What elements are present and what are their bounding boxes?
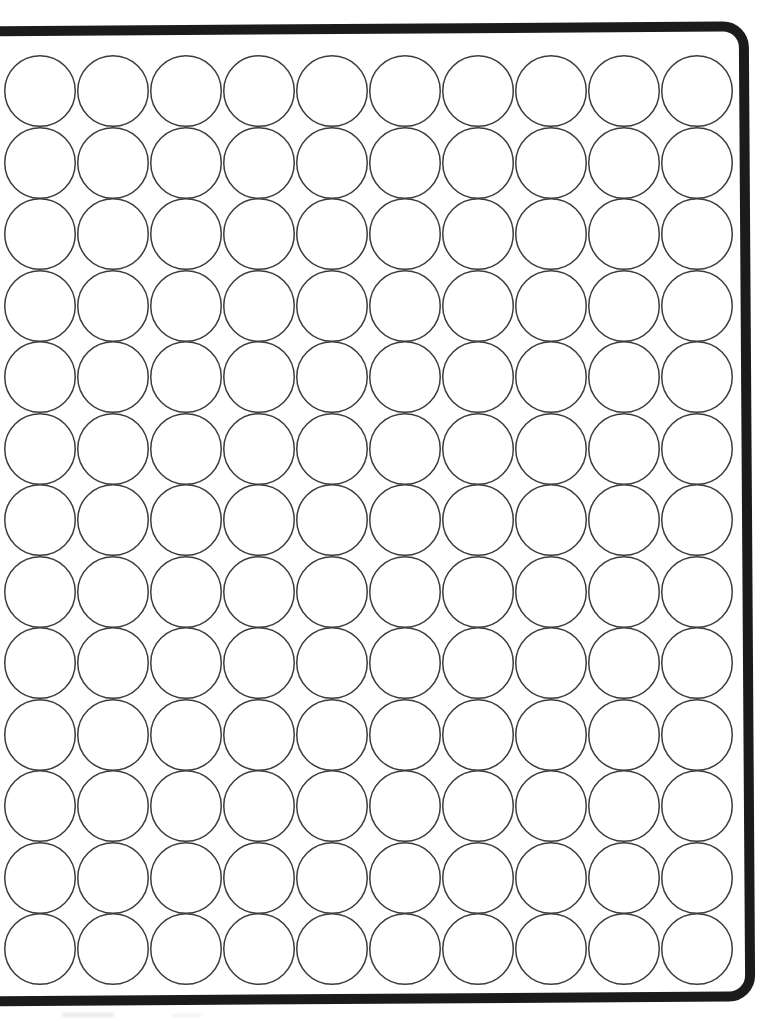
circle-cell[interactable] <box>223 556 296 628</box>
circle-cell[interactable] <box>442 413 515 485</box>
circle-cell[interactable] <box>77 627 150 699</box>
circle-cell[interactable] <box>661 770 734 842</box>
circle-cell[interactable] <box>223 127 296 199</box>
circle-cell[interactable] <box>77 770 150 842</box>
circle-cell[interactable] <box>369 270 442 342</box>
circle-cell[interactable] <box>661 413 734 485</box>
circle-cell[interactable] <box>515 413 588 485</box>
circle-cell[interactable] <box>442 198 515 270</box>
circle-cell[interactable] <box>515 127 588 199</box>
circle-cell[interactable] <box>223 198 296 270</box>
circle-cell[interactable] <box>4 484 77 556</box>
circle-cell[interactable] <box>77 913 150 985</box>
circle-cell[interactable] <box>369 913 442 985</box>
circle-cell[interactable] <box>442 913 515 985</box>
circle-cell[interactable] <box>223 627 296 699</box>
circle-cell[interactable] <box>661 55 734 127</box>
circle-cell[interactable] <box>77 413 150 485</box>
circle-cell[interactable] <box>515 341 588 413</box>
circle-cell[interactable] <box>296 198 369 270</box>
circle-cell[interactable] <box>588 699 661 771</box>
circle-cell[interactable] <box>223 341 296 413</box>
circle-cell[interactable] <box>296 127 369 199</box>
circle-cell[interactable] <box>150 341 223 413</box>
circle-cell[interactable] <box>296 341 369 413</box>
circle-cell[interactable] <box>150 484 223 556</box>
circle-cell[interactable] <box>661 699 734 771</box>
circle-cell[interactable] <box>588 842 661 914</box>
circle-cell[interactable] <box>369 842 442 914</box>
circle-cell[interactable] <box>588 913 661 985</box>
circle-cell[interactable] <box>150 55 223 127</box>
circle-cell[interactable] <box>369 484 442 556</box>
circle-cell[interactable] <box>661 270 734 342</box>
circle-cell[interactable] <box>150 413 223 485</box>
circle-cell[interactable] <box>442 55 515 127</box>
circle-cell[interactable] <box>515 699 588 771</box>
circle-cell[interactable] <box>515 198 588 270</box>
circle-cell[interactable] <box>369 770 442 842</box>
circle-cell[interactable] <box>661 341 734 413</box>
circle-cell[interactable] <box>77 699 150 771</box>
circle-cell[interactable] <box>588 556 661 628</box>
circle-cell[interactable] <box>296 699 369 771</box>
circle-cell[interactable] <box>369 699 442 771</box>
circle-cell[interactable] <box>661 913 734 985</box>
circle-cell[interactable] <box>515 270 588 342</box>
circle-cell[interactable] <box>4 127 77 199</box>
circle-cell[interactable] <box>150 627 223 699</box>
circle-cell[interactable] <box>296 270 369 342</box>
circle-cell[interactable] <box>588 770 661 842</box>
circle-cell[interactable] <box>223 484 296 556</box>
circle-cell[interactable] <box>442 270 515 342</box>
circle-cell[interactable] <box>77 556 150 628</box>
circle-cell[interactable] <box>296 770 369 842</box>
circle-cell[interactable] <box>296 627 369 699</box>
circle-cell[interactable] <box>442 699 515 771</box>
circle-cell[interactable] <box>442 484 515 556</box>
circle-cell[interactable] <box>150 842 223 914</box>
circle-cell[interactable] <box>4 413 77 485</box>
circle-cell[interactable] <box>4 270 77 342</box>
circle-cell[interactable] <box>150 913 223 985</box>
circle-cell[interactable] <box>150 270 223 342</box>
circle-cell[interactable] <box>150 198 223 270</box>
circle-cell[interactable] <box>223 413 296 485</box>
circle-cell[interactable] <box>661 484 734 556</box>
circle-cell[interactable] <box>442 627 515 699</box>
circle-cell[interactable] <box>661 127 734 199</box>
circle-cell[interactable] <box>442 341 515 413</box>
circle-cell[interactable] <box>4 556 77 628</box>
circle-cell[interactable] <box>442 127 515 199</box>
circle-cell[interactable] <box>588 270 661 342</box>
circle-cell[interactable] <box>515 770 588 842</box>
circle-cell[interactable] <box>369 556 442 628</box>
circle-cell[interactable] <box>4 341 77 413</box>
circle-cell[interactable] <box>369 127 442 199</box>
circle-cell[interactable] <box>296 55 369 127</box>
circle-cell[interactable] <box>588 413 661 485</box>
circle-cell[interactable] <box>4 55 77 127</box>
circle-cell[interactable] <box>4 770 77 842</box>
circle-cell[interactable] <box>369 198 442 270</box>
circle-cell[interactable] <box>661 198 734 270</box>
circle-cell[interactable] <box>4 913 77 985</box>
circle-cell[interactable] <box>77 55 150 127</box>
circle-cell[interactable] <box>442 842 515 914</box>
circle-cell[interactable] <box>515 913 588 985</box>
circle-cell[interactable] <box>296 556 369 628</box>
circle-cell[interactable] <box>515 842 588 914</box>
circle-cell[interactable] <box>223 55 296 127</box>
circle-cell[interactable] <box>4 699 77 771</box>
circle-cell[interactable] <box>369 413 442 485</box>
circle-cell[interactable] <box>661 627 734 699</box>
circle-cell[interactable] <box>150 770 223 842</box>
circle-cell[interactable] <box>661 556 734 628</box>
circle-cell[interactable] <box>442 770 515 842</box>
circle-cell[interactable] <box>77 484 150 556</box>
circle-cell[interactable] <box>515 556 588 628</box>
circle-cell[interactable] <box>515 484 588 556</box>
circle-cell[interactable] <box>4 198 77 270</box>
circle-cell[interactable] <box>588 198 661 270</box>
circle-cell[interactable] <box>77 270 150 342</box>
